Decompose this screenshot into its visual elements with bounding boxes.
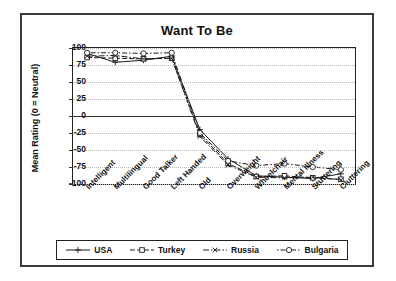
legend-label-bulgaria: Bulgaria	[305, 245, 339, 255]
gridline--25	[73, 133, 355, 134]
y-tick-label-0: 0	[81, 110, 86, 120]
legend-item-usa[interactable]: USA	[65, 245, 112, 255]
legend-item-russia[interactable]: Russia	[202, 245, 259, 255]
data-point-marker	[113, 50, 118, 55]
gridline--75	[73, 167, 355, 168]
legend-swatch-turkey	[129, 245, 155, 255]
y-tick-mark--50	[69, 150, 73, 151]
series-line-turkey	[87, 58, 341, 180]
y-tick-mark-75	[69, 65, 73, 66]
gridline--50	[73, 150, 355, 151]
y-tick-mark-50	[69, 82, 73, 83]
data-point-marker	[75, 247, 81, 253]
y-tick-label--50: -50	[74, 144, 86, 154]
chart-frame: Want To Be Mean Rating (0 = Neutral) Int…	[20, 13, 374, 267]
y-tick-label-25: 25	[77, 93, 86, 103]
legend-item-turkey[interactable]: Turkey	[129, 245, 185, 255]
y-tick-mark-0	[69, 116, 73, 117]
legend-label-turkey: Turkey	[158, 245, 185, 255]
y-axis-title: Mean Rating (0 = Neutral)	[28, 49, 42, 187]
y-tick-label--25: -25	[74, 127, 86, 137]
legend-swatch-bulgaria	[276, 245, 302, 255]
series-line-bulgaria	[87, 53, 341, 170]
chart-legend: USATurkeyRussiaBulgaria	[56, 240, 348, 260]
legend-swatch-russia	[202, 245, 228, 255]
y-tick-mark-25	[69, 99, 73, 100]
y-tick-label--75: -75	[74, 161, 86, 171]
legend-item-bulgaria[interactable]: Bulgaria	[276, 245, 339, 255]
gridline-75	[73, 65, 355, 66]
y-tick-mark--25	[69, 133, 73, 134]
y-tick-label-50: 50	[77, 76, 86, 86]
legend-swatch-usa	[65, 245, 91, 255]
gridline-100	[73, 48, 355, 49]
y-tick-label-100: 100	[72, 42, 86, 52]
data-point-marker	[140, 248, 145, 253]
data-point-marker	[169, 50, 174, 55]
series-line-russia	[87, 56, 341, 180]
data-point-marker	[226, 158, 231, 163]
chart-title: Want To Be	[22, 23, 372, 38]
y-tick-label--100: -100	[69, 178, 86, 188]
gridline-0	[73, 116, 355, 117]
gridline-25	[73, 99, 355, 100]
y-tick-mark--75	[69, 167, 73, 168]
y-axis-title-text: Mean Rating (0 = Neutral)	[30, 64, 40, 172]
data-point-marker	[141, 51, 146, 56]
legend-label-russia: Russia	[231, 245, 259, 255]
gridline-50	[73, 82, 355, 83]
data-point-marker	[286, 247, 291, 252]
y-tick-label-75: 75	[77, 59, 86, 69]
legend-label-usa: USA	[94, 245, 112, 255]
x-axis-labels: IntelligentMultilingualGood TalkerLeft H…	[72, 185, 356, 239]
